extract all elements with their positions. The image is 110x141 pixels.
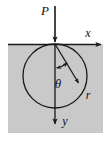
- x-axis-label: x: [84, 26, 91, 40]
- load-label: P: [40, 3, 49, 18]
- y-axis-label: y: [61, 114, 68, 128]
- radius-label: r: [86, 88, 91, 102]
- half-plane-point-load-diagram: P x y θ r: [0, 0, 110, 141]
- theta-label: θ: [55, 76, 62, 91]
- figure-container: P x y θ r: [0, 0, 110, 141]
